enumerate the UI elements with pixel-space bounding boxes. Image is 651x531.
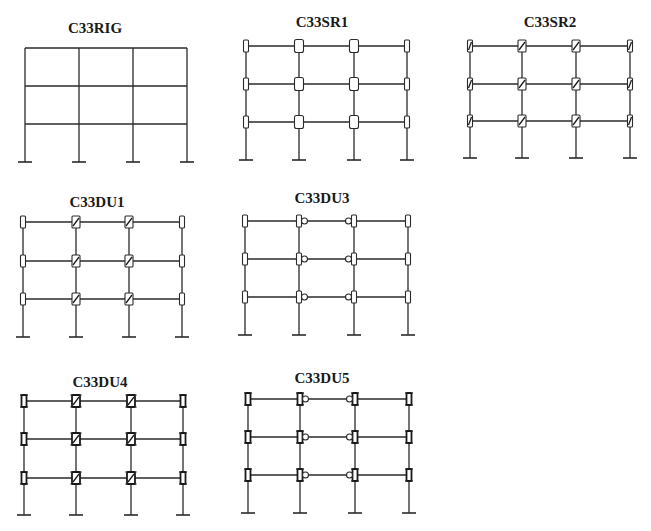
frames-diagram: C33RIGC33SR1C33SR2C33DU1C33DU3C33DU4C33D… [0,0,651,531]
frame-title: C33DU4 [73,374,128,390]
connection-rect-wide-icon [295,40,304,53]
connection-rect-icon [244,40,249,52]
connection-rect-icon [405,393,413,405]
connection-rect-pin-icon [346,253,357,265]
connection-rect-diag-icon [628,78,633,90]
connection-rect-diag-icon [71,395,82,407]
connection-rect-diag-icon [126,433,137,445]
connection-rect-wide-icon [295,78,304,91]
connection-rect-icon [244,393,252,405]
connection-rect-wide-icon [295,116,304,129]
connection-rect-diag-icon [572,78,580,90]
frame-c33du1: C33DU1 [16,194,189,337]
connection-rect-pin-icon [346,291,357,303]
frame-c33du4: C33DU4 [17,374,190,515]
connection-rect-pin-icon [297,291,308,303]
connection-rect-icon [21,255,26,267]
frame-c33sr2: C33SR2 [463,14,637,158]
connection-rect-diag-icon [518,115,526,127]
connection-rect-icon [20,395,28,407]
connection-rect-icon [180,216,185,228]
connection-rect-icon [180,293,185,305]
connection-rect-pin-icon [296,469,309,481]
connection-rect-diag-icon [125,216,133,228]
connection-rect-icon [406,291,411,303]
connection-rect-icon [406,215,411,227]
connection-rect-icon [179,395,187,407]
connection-rect-icon [243,215,248,227]
frame-title: C33DU1 [70,194,125,210]
frame-c33du5: C33DU5 [241,370,416,513]
connection-rect-icon [405,78,410,90]
connection-rect-diag-icon [125,293,133,305]
connection-rect-wide-icon [350,78,359,91]
connection-rect-diag-icon [572,40,580,52]
connection-rect-icon [244,469,252,481]
connection-rect-icon [180,255,185,267]
connection-rect-diag-icon [518,78,526,90]
connection-rect-icon [20,433,28,445]
frame-title: C33SR1 [296,14,349,30]
connection-rect-icon [405,116,410,128]
connection-rect-icon [21,216,26,228]
connection-rect-diag-icon [71,433,82,445]
frame-title: C33DU3 [295,190,350,206]
connection-rect-wide-icon [350,40,359,53]
connection-rect-icon [406,253,411,265]
connection-rect-diag-icon [468,78,473,90]
connection-rect-icon [244,78,249,90]
connection-rect-icon [20,472,28,484]
connection-rect-icon [243,253,248,265]
connection-rect-diag-icon [72,255,80,267]
connection-rect-diag-icon [71,472,82,484]
connection-rect-pin-icon [296,393,309,405]
connection-rect-diag-icon [468,40,473,52]
connection-rect-pin-icon [296,431,309,443]
connection-rect-pin-icon [347,469,360,481]
connection-rect-icon [405,431,413,443]
connection-rect-icon [405,469,413,481]
frame-c33sr1: C33SR1 [239,14,414,160]
frame-title: C33RIG [68,20,123,36]
connection-rect-pin-icon [297,215,308,227]
connection-rect-icon [21,293,26,305]
connection-rect-diag-icon [125,255,133,267]
connection-rect-wide-icon [350,116,359,129]
connection-rect-icon [179,433,187,445]
connection-rect-diag-icon [628,115,633,127]
connection-rect-diag-icon [572,115,580,127]
frame-c33du3: C33DU3 [238,190,415,335]
connection-rect-icon [244,431,252,443]
connection-rect-pin-icon [297,253,308,265]
connection-rect-icon [405,40,410,52]
connection-rect-diag-icon [518,40,526,52]
connection-rect-pin-icon [347,393,360,405]
frame-c33rig: C33RIG [18,20,194,162]
connection-rect-diag-icon [628,40,633,52]
connection-rect-pin-icon [347,431,360,443]
frames-root: C33RIGC33SR1C33SR2C33DU1C33DU3C33DU4C33D… [16,14,637,515]
connection-rect-diag-icon [72,216,80,228]
connection-rect-diag-icon [468,115,473,127]
connection-rect-diag-icon [126,395,137,407]
connection-rect-icon [179,472,187,484]
connection-rect-icon [243,291,248,303]
connection-rect-diag-icon [72,293,80,305]
connection-rect-icon [244,116,249,128]
connection-rect-pin-icon [346,215,357,227]
frame-title: C33DU5 [295,370,350,386]
connection-rect-diag-icon [126,472,137,484]
frame-title: C33SR2 [524,14,577,30]
